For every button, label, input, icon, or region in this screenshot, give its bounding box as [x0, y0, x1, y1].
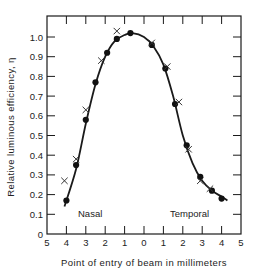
data-point-circle: [92, 79, 98, 85]
x-tick-label: 3: [83, 237, 88, 248]
data-point-cross: [83, 107, 89, 113]
data-point-circle: [114, 36, 120, 42]
data-point-circle: [219, 195, 225, 201]
data-point-circle: [127, 30, 133, 36]
x-tick-label: 3: [200, 237, 205, 248]
x-tick-label: 1: [161, 237, 166, 248]
x-tick-label: 1: [122, 237, 127, 248]
x-axis-title: Point of entry of beam in millimeters: [61, 257, 227, 268]
x-tick-label: 2: [180, 237, 185, 248]
data-point-circle: [63, 197, 69, 203]
y-tick-label: 0.3: [30, 169, 43, 180]
x-tick-label: 5: [238, 237, 243, 248]
y-tick-label: 0: [38, 229, 43, 240]
fit-line: [64, 33, 227, 206]
fitted-curve: [64, 33, 227, 206]
x-tick-label: 5: [44, 237, 49, 248]
y-tick-label: 0.4: [30, 150, 43, 161]
y-tick-label: 0.6: [30, 110, 43, 121]
x-tick-label: 4: [219, 237, 224, 248]
x-tick-label: 2: [103, 237, 108, 248]
y-tick-label: 0.1: [30, 209, 43, 220]
data-point-cross: [61, 178, 67, 184]
y-axis-title: Relative luminous efficiency, η: [5, 57, 16, 196]
x-axis-ticks: 54321012345: [44, 16, 243, 248]
y-tick-label: 0.8: [30, 71, 43, 82]
luminous-efficiency-chart: 54321012345 00.10.20.30.40.50.60.70.80.9…: [0, 0, 254, 273]
data-point-circle: [73, 162, 79, 168]
plot-border: [47, 16, 241, 234]
y-tick-label: 1.0: [30, 32, 43, 43]
x-tick-label: 0: [141, 237, 146, 248]
y-tick-label: 0.5: [30, 130, 43, 141]
x-tick-label: 4: [64, 237, 69, 248]
nasal-label: Nasal: [78, 208, 102, 219]
data-point-circle: [83, 117, 89, 123]
y-tick-label: 0.9: [30, 51, 43, 62]
y-axis-ticks: 00.10.20.30.40.50.60.70.80.91.0: [30, 32, 241, 240]
y-tick-label: 0.2: [30, 189, 43, 200]
temporal-label: Temporal: [170, 208, 209, 219]
y-tick-label: 0.7: [30, 91, 43, 102]
data-point-circle: [104, 50, 110, 56]
data-point-cross: [114, 28, 120, 34]
plot-frame: [47, 16, 241, 234]
cross-markers: [61, 28, 213, 192]
